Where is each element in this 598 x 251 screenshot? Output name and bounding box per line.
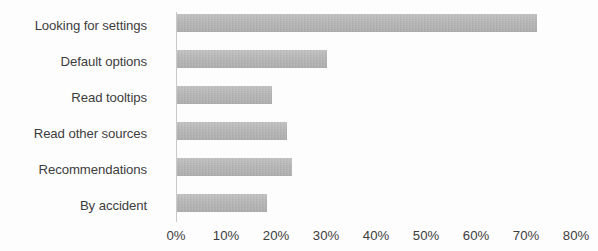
category-label-read-tooltips: Read tooltips <box>0 91 147 105</box>
bar-default-options <box>177 50 327 68</box>
category-label-default-options: Default options <box>0 55 147 69</box>
bar-looking-for-settings <box>177 14 537 32</box>
category-label-read-other-sources: Read other sources <box>0 127 147 141</box>
category-axis-labels: Looking for settings Default options Rea… <box>0 10 163 222</box>
bar-read-tooltips <box>177 86 272 104</box>
bar-chart: Looking for settings Default options Rea… <box>0 0 598 251</box>
bar-read-other-sources <box>177 122 287 140</box>
xtick-label-80: 80% <box>546 228 598 244</box>
plot-area <box>176 10 586 222</box>
category-label-looking-for-settings: Looking for settings <box>0 19 147 33</box>
value-axis-line <box>176 12 177 222</box>
value-axis-tick-labels: 0% 10% 20% 30% 40% 50% 60% 70% 80% <box>0 228 598 248</box>
bar-by-accident <box>177 194 267 212</box>
bar-recommendations <box>177 158 292 176</box>
category-label-by-accident: By accident <box>0 199 147 213</box>
category-label-recommendations: Recommendations <box>0 163 147 177</box>
